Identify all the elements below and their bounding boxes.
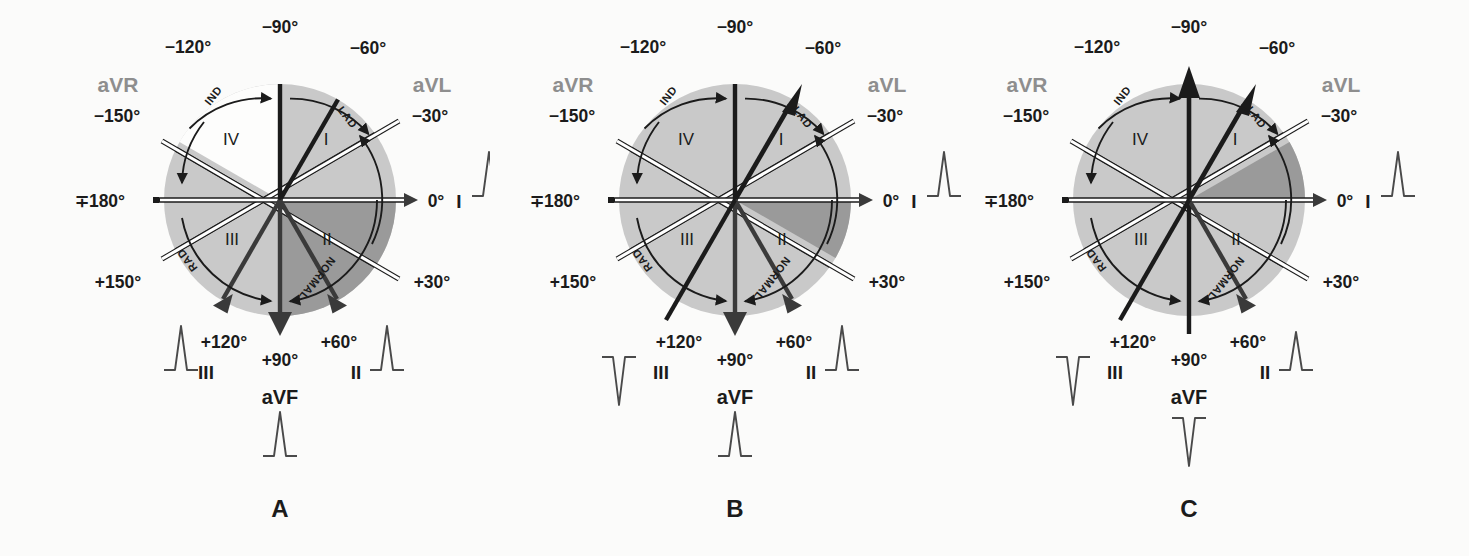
ecg-tracing-aVF	[263, 412, 297, 456]
degree-label-pos30: +30°	[1323, 272, 1360, 292]
lead-label-aVR: aVR	[1007, 73, 1048, 96]
degree-label-neg90: −90°	[1171, 17, 1208, 37]
ecg-tracing-aVF	[1172, 418, 1206, 466]
panel-caption: B	[726, 495, 743, 522]
quadrant-label-1: I	[1233, 130, 1238, 149]
ecg-tracing-II	[370, 326, 404, 370]
lead-label-II: II	[805, 362, 816, 383]
degree-label-pos120: +120°	[1110, 332, 1156, 352]
figure-panels: IND LAD RAD NORMAL I II III IV −90° −120…	[0, 0, 1469, 556]
lead-label-I: I	[911, 191, 916, 212]
lead-label-aVL: aVL	[867, 73, 906, 96]
quadrant-label-1: I	[324, 130, 329, 149]
degree-label-pos60: +60°	[321, 332, 358, 352]
lead-label-II: II	[1260, 362, 1271, 383]
lead-label-aVL: aVL	[413, 73, 452, 96]
lead-label-aVF: aVF	[716, 386, 753, 408]
degree-label-neg30: −30°	[412, 106, 449, 126]
lead-label-I: I	[1366, 191, 1371, 212]
quadrant-label-1: I	[778, 130, 783, 149]
degree-label-pos60: +60°	[775, 332, 812, 352]
lead-label-III: III	[198, 362, 214, 383]
ecg-tracing-III	[1056, 357, 1090, 405]
quadrant-label-4: IV	[678, 130, 695, 149]
lead-label-aVR: aVR	[552, 73, 593, 96]
ecg-tracing-I	[1381, 152, 1415, 196]
panel-caption: C	[1181, 495, 1198, 522]
vector-pos90-head	[723, 312, 747, 336]
ecg-tracing-I	[472, 152, 490, 196]
degree-label-neg90: −90°	[716, 17, 753, 37]
quadrant-label-3: III	[680, 230, 694, 249]
degree-label-neg120: −120°	[165, 37, 211, 57]
lead-label-aVR: aVR	[98, 73, 139, 96]
degree-label-zero: 0°	[428, 191, 445, 211]
degree-label-pm180: ∓180°	[984, 191, 1034, 211]
degree-label-neg30: −30°	[1321, 106, 1358, 126]
lead-label-aVF: aVF	[262, 386, 299, 408]
degree-label-pm180: ∓180°	[530, 191, 580, 211]
degree-label-neg150: −150°	[1003, 106, 1049, 126]
lead-label-II: II	[351, 362, 362, 383]
vector-neg90-head	[1178, 66, 1200, 98]
degree-label-zero: 0°	[1337, 191, 1354, 211]
degree-label-pos90: +90°	[716, 350, 753, 370]
panel-A: IND LAD RAD NORMAL I II III IV −90° −120…	[0, 0, 490, 556]
degree-label-neg60: −60°	[804, 38, 841, 58]
degree-label-neg60: −60°	[350, 38, 387, 58]
degree-label-pos150: +150°	[95, 272, 141, 292]
lead-label-III: III	[1107, 362, 1123, 383]
ecg-tracing-III	[164, 326, 198, 370]
panel-caption: A	[271, 495, 288, 522]
degree-label-neg150: −150°	[94, 106, 140, 126]
degree-label-neg120: −120°	[619, 37, 665, 57]
lead-label-aVF: aVF	[1171, 386, 1208, 408]
degree-label-pos120: +120°	[201, 332, 247, 352]
lead-label-III: III	[653, 362, 669, 383]
quadrant-label-4: IV	[223, 130, 240, 149]
lead-label-I: I	[456, 191, 461, 212]
panel-B: IND LAD RAD NORMAL I II III IV −90° −120…	[490, 0, 980, 556]
quadrant-label-4: IV	[1132, 130, 1149, 149]
degree-label-pos90: +90°	[262, 350, 299, 370]
degree-label-neg30: −30°	[866, 106, 903, 126]
degree-label-pos90: +90°	[1171, 350, 1208, 370]
degree-label-neg90: −90°	[262, 17, 299, 37]
ecg-tracing-I	[927, 152, 961, 196]
degree-label-pos30: +30°	[868, 272, 905, 292]
panel-C: IND LAD RAD NORMAL I II III IV −90° −120…	[979, 0, 1469, 556]
quadrant-label-3: III	[225, 230, 239, 249]
degree-label-pos30: +30°	[414, 272, 451, 292]
quadrant-label-2: II	[777, 230, 786, 249]
ecg-tracing-II	[1279, 332, 1313, 370]
lead-label-aVL: aVL	[1322, 73, 1361, 96]
vector-pos90-head	[268, 312, 292, 336]
degree-label-neg150: −150°	[548, 106, 594, 126]
ecg-tracing-III	[602, 357, 636, 405]
ecg-tracing-aVF	[718, 412, 752, 456]
degree-label-neg120: −120°	[1074, 37, 1120, 57]
ecg-tracing-II	[825, 326, 859, 370]
degree-label-neg60: −60°	[1259, 38, 1296, 58]
quadrant-label-2: II	[322, 230, 331, 249]
quadrant-label-3: III	[1134, 230, 1148, 249]
degree-label-pos60: +60°	[1230, 332, 1267, 352]
degree-label-pm180: ∓180°	[75, 191, 125, 211]
degree-label-pos150: +150°	[549, 272, 595, 292]
degree-label-pos150: +150°	[1004, 272, 1050, 292]
degree-label-pos120: +120°	[655, 332, 701, 352]
quadrant-label-2: II	[1231, 230, 1240, 249]
degree-label-zero: 0°	[882, 191, 899, 211]
